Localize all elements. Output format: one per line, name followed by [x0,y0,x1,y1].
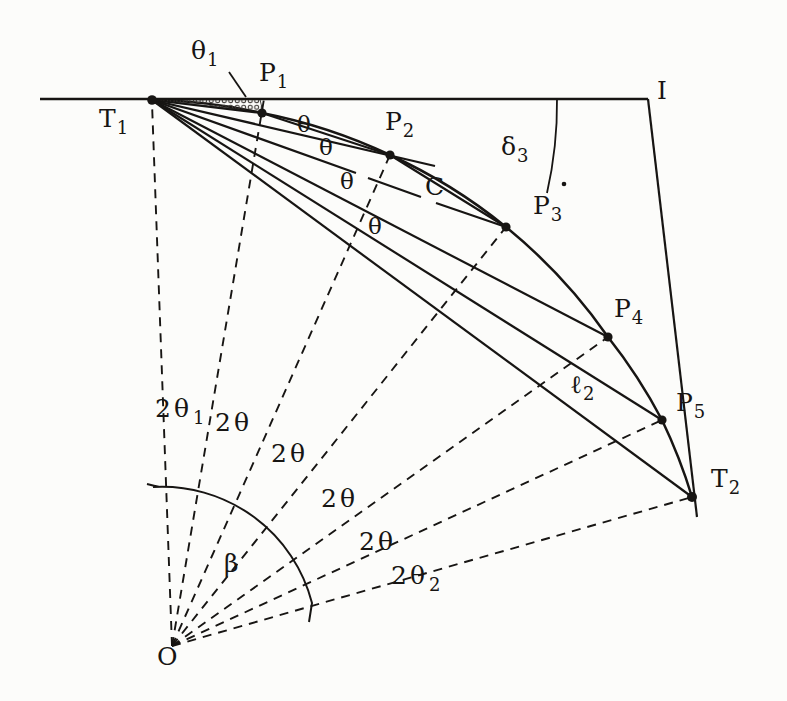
label-p4: P4 [614,296,643,327]
radius-o-p5 [172,420,662,646]
label-i: I [657,78,667,103]
label-t2: T2 [711,466,740,497]
dot-t1 [147,95,157,105]
radius-o-p4 [172,337,608,646]
dot-p1 [257,108,266,117]
label-o: O [157,644,178,669]
dot-p2 [385,150,394,159]
label-ell2: ℓ2 [570,372,594,403]
label-p3: P3 [533,193,562,224]
label-t1: T1 [99,106,128,137]
label-beta: β [224,551,238,576]
label-p2: P2 [385,109,414,140]
label-2theta1: 2θ1 [155,396,207,427]
curve-deflection-diagram: T1 θ1 P1 P2 P3 P4 P5 T2 I δ3 C ℓ2 θ θ θ … [0,0,787,701]
label-2theta-c: 2θ [321,486,358,511]
label-2theta-b: 2θ [271,441,308,466]
radius-o-t1 [152,103,172,646]
delta3-angle-arc [547,99,557,193]
label-delta3: δ3 [501,134,529,165]
radius-o-p1 [172,99,264,646]
tangent-line-i-t2 [648,99,697,517]
dot-p3 [501,222,510,231]
chord-t1-p3 [152,100,506,227]
dot-p4 [603,332,612,341]
label-2theta-a: 2θ [215,410,252,435]
label-theta-b: θ [319,136,333,159]
label-theta-d: θ [368,215,382,238]
label-p5: P5 [676,390,705,421]
label-2theta2: 2θ2 [391,563,443,594]
label-2theta-d: 2θ [359,529,396,554]
theta1-leader-line [229,72,246,97]
label-theta1: θ1 [191,38,219,69]
dot-t2 [687,492,697,502]
label-chord-c: C [425,174,444,199]
label-p1: P1 [259,60,288,91]
label-theta-a: θ [297,113,311,136]
label-theta-c: θ [340,170,354,193]
dot-p5 [657,415,666,424]
delta3-arc-dot [562,182,567,187]
chord-t1-t2 [152,100,692,497]
